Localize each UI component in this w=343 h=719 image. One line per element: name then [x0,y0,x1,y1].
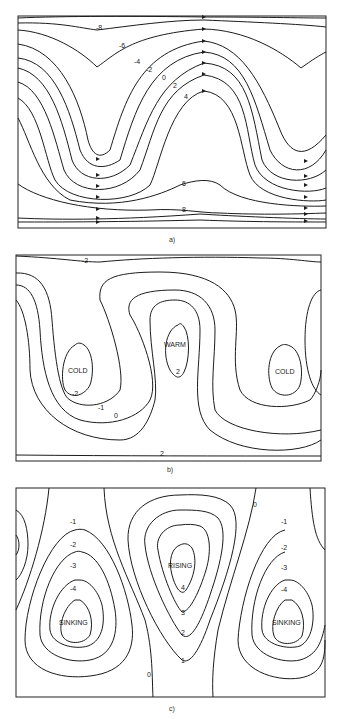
contour-label: 2 [181,629,185,636]
zero-contour-label: 0 [147,671,151,678]
contour-label: 2 [173,82,177,89]
contour-label: -3 [70,562,76,569]
contour-label: 2 [176,368,180,375]
panel-a: -8 -6 -4 -2 0 2 4 6 8 [18,15,326,228]
contour-label: 3 [181,609,185,616]
contour-label: 0 [162,74,166,81]
contour-label: -2 [82,257,88,264]
figure-canvas: -8 -6 -4 -2 0 2 4 6 8 -2 -2 -1 0 2 2 COL… [0,0,343,719]
contour-label: 8 [182,206,186,213]
cold-region-label: COLD [275,368,294,375]
contour-label: -2 [72,390,78,397]
panel-c: -1 -2 -3 -4 4 3 2 1 -1 -2 -3 -4 0 0 SINK… [16,488,325,697]
contour-label: -6 [119,42,125,49]
contour-label: -4 [70,585,76,592]
contour-label: -1 [98,404,104,411]
panel-c-caption: c) [169,705,175,712]
contour-label: 1 [181,657,185,664]
contour-label: -4 [281,586,287,593]
panel-b: -2 -2 -1 0 2 2 COLD WARM COLD [16,255,321,461]
contour-label: 6 [182,180,186,187]
rising-region-label: RISING [168,562,192,569]
contour-label: -2 [146,66,152,73]
contour-label: -2 [70,541,76,548]
contour-label: 0 [114,412,118,419]
sinking-region-label: SINKING [272,619,301,626]
contour-label: -8 [96,24,102,31]
cold-region-label: COLD [68,367,87,374]
contour-label: -1 [70,518,76,525]
contour-label: -4 [134,58,140,65]
contour-label: 4 [181,584,185,591]
sinking-region-label: SINKING [59,619,88,626]
contour-label: 2 [160,450,164,457]
panel-b-caption: b) [167,466,173,473]
panel-a-caption: a) [169,236,175,243]
contour-label: -2 [281,544,287,551]
contour-label: -1 [281,518,287,525]
zero-contour-label: 0 [253,501,257,508]
warm-region-label: WARM [164,341,186,348]
contour-label: 4 [184,93,188,100]
contour-label: -3 [281,564,287,571]
panel-b-frame [16,255,321,461]
